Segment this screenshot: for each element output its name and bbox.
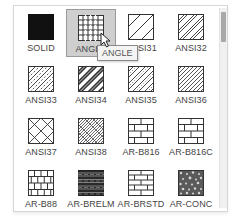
pattern-label: SOLID (27, 43, 55, 53)
pattern-ar-brstd[interactable]: AR-BRSTD (116, 165, 166, 217)
brick-icon (178, 118, 204, 144)
pattern-label: ANSI34 (75, 95, 107, 105)
scrollbar-thumb[interactable] (221, 12, 226, 42)
solid-fill-icon (28, 14, 54, 40)
ansi35-hatch-icon (128, 66, 154, 92)
pattern-label: ANSI32 (175, 43, 207, 53)
pattern-label: AR-B816C (169, 147, 213, 157)
pattern-label: AR-BRSTD (118, 199, 165, 209)
pattern-solid[interactable]: SOLID (16, 9, 66, 61)
vertical-scrollbar[interactable] (219, 8, 227, 208)
pattern-ar-brelm[interactable]: AR-BRELM (66, 165, 116, 217)
pattern-ansi38[interactable]: ANSI38 (66, 113, 116, 165)
ansi32-hatch-icon (178, 14, 204, 40)
concrete-icon (178, 170, 204, 196)
pattern-ar-b88[interactable]: AR-B88 (16, 165, 66, 217)
pattern-label: AR-B88 (25, 199, 57, 209)
pattern-ansi33[interactable]: ANSI33 (16, 61, 66, 113)
pattern-label: ANSI36 (175, 95, 207, 105)
pattern-ansi37[interactable]: ANSI37 (16, 113, 66, 165)
pattern-label: AR-BRELM (67, 199, 114, 209)
pattern-ansi35[interactable]: ANSI35 (116, 61, 166, 113)
ansi36-hatch-icon (178, 66, 204, 92)
brick-icon (128, 118, 154, 144)
pattern-label: ANSI33 (25, 95, 57, 105)
ansi31-hatch-icon (128, 14, 154, 40)
ansi34-hatch-icon (78, 66, 104, 92)
brick-std-icon (128, 170, 154, 196)
brick-small-icon (28, 170, 54, 196)
pattern-label: ANSI37 (25, 147, 57, 157)
ansi37-hatch-icon (28, 118, 54, 144)
pattern-label: AR-B816 (122, 147, 159, 157)
pattern-ar-b816[interactable]: AR-B816 (116, 113, 166, 165)
pattern-grid: SOLID ANGLE (16, 9, 216, 217)
pattern-label: AR-CONC (170, 199, 213, 209)
pattern-ansi32[interactable]: ANSI32 (166, 9, 216, 61)
pattern-ansi34[interactable]: ANSI34 (66, 61, 116, 113)
ansi33-hatch-icon (28, 66, 54, 92)
pattern-ar-b816c[interactable]: AR-B816C (166, 113, 216, 165)
pattern-label: ANSI38 (75, 147, 107, 157)
mouse-cursor-icon (100, 32, 112, 48)
pattern-ar-conc[interactable]: AR-CONC (166, 165, 216, 217)
hatch-pattern-palette: SOLID ANGLE (13, 5, 228, 212)
pattern-ansi36[interactable]: ANSI36 (166, 61, 216, 113)
brick-elm-icon (78, 170, 104, 196)
ansi38-hatch-icon (78, 118, 104, 144)
pattern-label: ANSI35 (125, 95, 157, 105)
